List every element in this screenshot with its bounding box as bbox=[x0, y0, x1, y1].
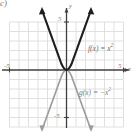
curve-f-annotation: f(x) = x2 bbox=[88, 43, 113, 52]
graph-canvas bbox=[0, 0, 136, 133]
y-axis-label: y bbox=[69, 3, 72, 10]
curve-g-annotation-exponent: 2 bbox=[108, 86, 111, 92]
curve-g-annotation-text: g(x) = −x bbox=[79, 88, 108, 97]
curve-f-annotation-text: f(x) = x bbox=[88, 44, 111, 53]
parabola-figure: c) x y 5 -5 -5 5 f(x) = x2 g(x) = −x2 bbox=[0, 0, 136, 133]
x-axis-tick-5: 5 bbox=[118, 63, 122, 70]
figure-item-label: c) bbox=[0, 0, 7, 8]
y-axis-tick-5: 5 bbox=[58, 16, 62, 23]
y-axis-tick-minus-5: -5 bbox=[54, 113, 60, 120]
x-axis-tick-minus-5: -5 bbox=[4, 63, 10, 70]
x-axis-label: x bbox=[128, 66, 131, 73]
curve-g-annotation: g(x) = −x2 bbox=[79, 87, 111, 96]
curve-f-annotation-exponent: 2 bbox=[111, 42, 114, 48]
